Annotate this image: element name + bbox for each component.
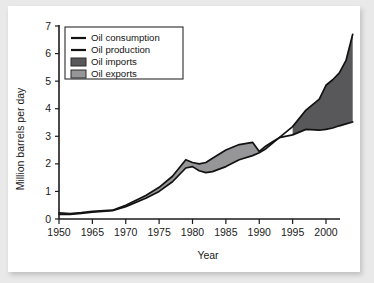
- x-tick-label: 1980: [181, 226, 205, 238]
- x-tick-label: 1970: [114, 226, 138, 238]
- oil-imports-band: [293, 34, 353, 135]
- x-axis-ticks: 195019651970197519801985199019952000: [47, 219, 338, 238]
- chart-card: 01234567 1950196519701975198019851990199…: [8, 6, 360, 272]
- legend-label: Oil imports: [91, 56, 137, 67]
- y-tick-label: 7: [45, 20, 51, 32]
- x-tick-label: 1975: [147, 226, 171, 238]
- oil-exports-band: [59, 138, 279, 215]
- page-root: 01234567 1950196519701975198019851990199…: [0, 0, 374, 283]
- y-tick-label: 5: [45, 75, 51, 87]
- x-tick-label: 1965: [81, 226, 105, 238]
- legend-label: Oil exports: [91, 68, 137, 79]
- legend-label: Oil production: [91, 44, 150, 55]
- legend-box-swatch: [71, 58, 86, 66]
- x-tick-label: 2000: [314, 226, 338, 238]
- x-axis-title: Year: [197, 249, 219, 261]
- y-tick-label: 3: [45, 130, 51, 142]
- y-tick-label: 6: [45, 47, 51, 59]
- y-tick-label: 0: [45, 213, 51, 225]
- y-axis-title: Million barrels per day: [14, 87, 26, 190]
- x-tick-label: 1990: [248, 226, 272, 238]
- oil-consumption-production-chart: 01234567 1950196519701975198019851990199…: [8, 6, 360, 272]
- legend-label: Oil consumption: [91, 32, 160, 43]
- x-tick-label: 1995: [281, 226, 305, 238]
- x-tick-label: 1985: [214, 226, 238, 238]
- x-tick-label: 1950: [47, 226, 71, 238]
- y-axis-ticks: 01234567: [45, 20, 59, 225]
- legend-box-swatch: [71, 70, 86, 78]
- chart-legend: Oil consumptionOil productionOil imports…: [65, 27, 183, 79]
- y-tick-label: 2: [45, 157, 51, 169]
- y-tick-label: 1: [45, 185, 51, 197]
- y-tick-label: 4: [45, 102, 51, 114]
